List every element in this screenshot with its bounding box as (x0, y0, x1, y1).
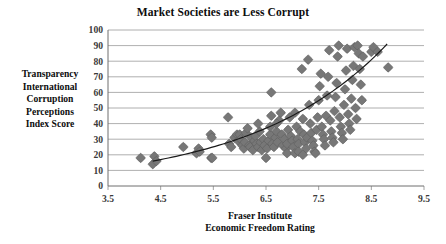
y-tick-labels: 0102030405060708090100 (89, 24, 104, 191)
x-tick-marks (108, 186, 424, 190)
data-point (357, 95, 367, 105)
data-point (324, 45, 334, 55)
chart-container: Market Societies are Less Corrupt Transp… (0, 0, 446, 244)
data-point (266, 111, 276, 121)
data-point (331, 92, 341, 102)
x-tick-label: 7.5 (313, 193, 325, 204)
x-tick-label: 4.5 (155, 193, 167, 204)
data-point (253, 119, 263, 129)
data-point (276, 108, 286, 118)
x-tick-label: 6.5 (260, 193, 272, 204)
y-tick-label: 10 (93, 165, 103, 176)
data-point (334, 41, 344, 51)
y-tick-label: 100 (89, 24, 104, 35)
x-tick-label: 9.5 (418, 193, 430, 204)
data-point (266, 87, 276, 97)
x-tick-labels: 3.54.55.56.57.58.59.5 (102, 193, 430, 204)
data-point (315, 81, 325, 91)
y-tick-label: 60 (93, 87, 103, 98)
y-tick-label: 90 (93, 40, 103, 51)
data-point (383, 62, 393, 72)
data-point (356, 80, 366, 90)
y-tick-label: 30 (93, 134, 103, 145)
y-tick-label: 70 (93, 71, 103, 82)
x-tick-label: 8.5 (365, 193, 377, 204)
data-point (313, 112, 323, 122)
data-point (333, 52, 343, 62)
x-tick-label: 5.5 (207, 193, 219, 204)
data-point (223, 112, 233, 122)
data-point (343, 109, 353, 119)
scatter-plot: 0102030405060708090100 3.54.55.56.57.58.… (0, 0, 446, 244)
data-point (178, 142, 188, 152)
data-point (297, 64, 307, 74)
y-tick-label: 50 (93, 102, 103, 113)
y-tick-label: 0 (98, 180, 103, 191)
data-point (346, 94, 356, 104)
y-tick-label: 40 (93, 118, 103, 129)
y-tick-label: 80 (93, 56, 103, 67)
x-tick-label: 3.5 (102, 193, 114, 204)
y-tick-label: 20 (93, 149, 103, 160)
data-point (351, 103, 361, 113)
data-point (303, 55, 313, 65)
data-point-group (136, 41, 393, 169)
